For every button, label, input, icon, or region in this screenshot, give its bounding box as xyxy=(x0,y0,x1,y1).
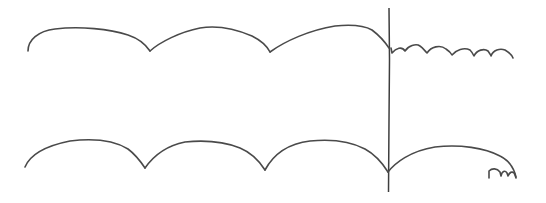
top-arc-2 xyxy=(150,27,270,52)
diagram-canvas: Hand-drawn sketch of two rows of cycloid… xyxy=(0,0,546,203)
bottom-arc-3 xyxy=(265,140,388,172)
bottom-arc-1 xyxy=(25,140,145,168)
top-arc-3 xyxy=(270,25,389,52)
top-row-small-arcs xyxy=(391,45,513,58)
top-row-arcs xyxy=(28,25,389,52)
bottom-arc-4 xyxy=(388,146,516,177)
bottom-row-arcs xyxy=(25,140,516,177)
sketch-svg xyxy=(0,0,546,203)
bottom-arc-2 xyxy=(145,141,265,170)
top-arc-1 xyxy=(28,28,150,51)
vertical-divider-line xyxy=(389,8,390,192)
bottom-row-squiggle xyxy=(489,169,516,178)
